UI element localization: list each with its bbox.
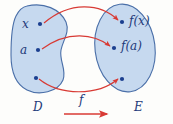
point-fa-dot: [112, 46, 116, 50]
label-codomain-E: E: [134, 101, 143, 113]
point-x-dot: [38, 22, 42, 26]
function-mapping-figure: x a f(x) f(a) D f E: [0, 0, 173, 124]
point-unlabeled-domain-dot: [34, 76, 38, 80]
point-a-dot: [36, 48, 40, 52]
label-f-of-a: f(a): [121, 40, 142, 52]
point-fx-dot: [120, 20, 124, 24]
label-function-f: f: [79, 94, 83, 106]
label-f-of-x: f(x): [129, 15, 150, 27]
label-x: x: [22, 18, 29, 30]
label-a: a: [20, 44, 27, 56]
point-unlabeled-codomain-dot: [120, 77, 124, 81]
label-domain-D: D: [33, 101, 43, 113]
